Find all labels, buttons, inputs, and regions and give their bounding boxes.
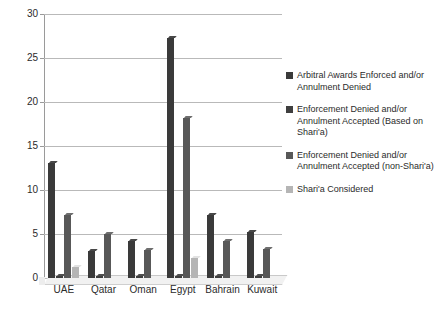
legend-label: Shari'a Considered bbox=[297, 184, 373, 196]
bar bbox=[247, 232, 254, 278]
plot-area bbox=[44, 14, 282, 278]
chart-legend: Arbitral Awards Enforced and/or Annulmen… bbox=[286, 70, 441, 206]
bar bbox=[255, 276, 262, 278]
bar-group bbox=[123, 14, 163, 278]
bar-group bbox=[44, 14, 84, 278]
bar-group bbox=[203, 14, 243, 278]
legend-item[interactable]: Enforcement Denied and/or Annulment Acce… bbox=[286, 150, 441, 173]
bar bbox=[104, 234, 111, 278]
bar bbox=[191, 258, 198, 278]
x-axis-tick-label: Kuwait bbox=[242, 284, 282, 296]
x-axis-tick-label: UAE bbox=[44, 284, 84, 296]
bar-group bbox=[84, 14, 124, 278]
x-axis-tick-label: Egypt bbox=[163, 284, 203, 296]
legend-swatch-icon bbox=[286, 72, 293, 79]
legend-swatch-icon bbox=[286, 152, 293, 159]
legend-item[interactable]: Arbitral Awards Enforced and/or Annulmen… bbox=[286, 70, 441, 93]
x-axis-tick-label: Bahrain bbox=[203, 284, 243, 296]
y-axis-tick-label: 5 bbox=[4, 229, 38, 239]
bar bbox=[96, 276, 103, 278]
bar-group bbox=[163, 14, 203, 278]
y-axis: 051015202530 bbox=[0, 14, 38, 278]
bars-layer bbox=[44, 14, 282, 278]
y-axis-tick-label: 25 bbox=[4, 53, 38, 63]
x-axis-tick-label: Oman bbox=[123, 284, 163, 296]
legend-label: Arbitral Awards Enforced and/or Annulmen… bbox=[297, 70, 441, 93]
y-axis-tick-label: 10 bbox=[4, 185, 38, 195]
y-axis-tick-label: 15 bbox=[4, 141, 38, 151]
legend-label: Enforcement Denied and/or Annulment Acce… bbox=[297, 104, 441, 139]
bar bbox=[56, 276, 63, 278]
bar bbox=[48, 163, 55, 278]
bar bbox=[72, 267, 79, 278]
bar bbox=[263, 249, 270, 278]
bar bbox=[215, 276, 222, 278]
bar-group bbox=[242, 14, 282, 278]
bar bbox=[128, 241, 135, 278]
bar bbox=[167, 38, 174, 278]
bar bbox=[175, 276, 182, 278]
legend-item[interactable]: Enforcement Denied and/or Annulment Acce… bbox=[286, 104, 441, 139]
bar bbox=[88, 251, 95, 278]
legend-label: Enforcement Denied and/or Annulment Acce… bbox=[297, 150, 441, 173]
bar bbox=[136, 276, 143, 278]
bar bbox=[64, 215, 71, 278]
y-axis-tick-label: 30 bbox=[4, 9, 38, 19]
x-axis-tick-label: Qatar bbox=[84, 284, 124, 296]
bar-chart: 051015202530 UAEQatarOmanEgyptBahrainKuw… bbox=[0, 0, 445, 314]
x-axis: UAEQatarOmanEgyptBahrainKuwait bbox=[44, 284, 282, 302]
bar bbox=[144, 250, 151, 278]
legend-swatch-icon bbox=[286, 106, 293, 113]
y-axis-tick-label: 0 bbox=[4, 273, 38, 283]
y-axis-tick-label: 20 bbox=[4, 97, 38, 107]
bar bbox=[207, 215, 214, 278]
bar bbox=[223, 241, 230, 278]
legend-item[interactable]: Shari'a Considered bbox=[286, 184, 441, 196]
legend-swatch-icon bbox=[286, 186, 293, 193]
bar bbox=[183, 118, 190, 278]
